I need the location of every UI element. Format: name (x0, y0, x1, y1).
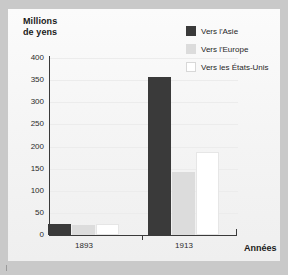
gridline (50, 147, 238, 148)
x-axis-end-tick (236, 229, 237, 236)
y-axis-tick-label: 200 (18, 143, 44, 151)
y-axis-tick-label: 150 (18, 165, 44, 173)
gridline (50, 102, 238, 103)
legend: Vers l'Asie Vers l'Europe Vers les États… (186, 22, 282, 76)
gridline (50, 124, 238, 125)
x-axis-title: Années (244, 243, 277, 253)
x-axis-tick-label: 1893 (54, 241, 114, 250)
legend-swatch-europe-icon (186, 44, 196, 54)
bar-1913-usa (196, 152, 219, 235)
chart-figure: Millions de yens 40035030025020015010050… (0, 0, 288, 275)
legend-swatch-asie-icon (186, 26, 196, 36)
page-corner-mark (6, 265, 7, 271)
legend-label-etats-unis: Vers les États-Unis (201, 63, 269, 72)
y-axis-tick-label: 100 (18, 187, 44, 195)
x-axis-line (49, 235, 237, 236)
y-axis-line (49, 56, 50, 236)
x-axis-mid-tick (142, 235, 143, 240)
y-axis-tick-label: 250 (18, 120, 44, 128)
bar-1893-usa (96, 224, 119, 235)
legend-item-europe[interactable]: Vers l'Europe (186, 40, 282, 58)
y-axis-tick-label: 300 (18, 98, 44, 106)
legend-item-etats-unis[interactable]: Vers les États-Unis (186, 58, 282, 76)
legend-label-europe: Vers l'Europe (201, 45, 248, 54)
y-axis-tick-label: 350 (18, 76, 44, 84)
legend-item-asie[interactable]: Vers l'Asie (186, 22, 282, 40)
y-axis-tick-label: 400 (18, 54, 44, 62)
bar-1913-europe (172, 172, 195, 235)
legend-swatch-etats-unis-icon (186, 62, 196, 72)
bar-1893-asie (48, 224, 71, 235)
bar-1913-asie (148, 77, 171, 235)
y-axis-tick-label: 0 (18, 231, 44, 239)
y-axis-tick-label: 50 (18, 209, 44, 217)
gridline (50, 80, 238, 81)
bar-1893-europe (72, 225, 95, 235)
legend-label-asie: Vers l'Asie (201, 27, 238, 36)
x-axis-tick-label: 1913 (154, 241, 214, 250)
y-axis-tick-labels: 400350300250200150100500 (16, 0, 44, 275)
